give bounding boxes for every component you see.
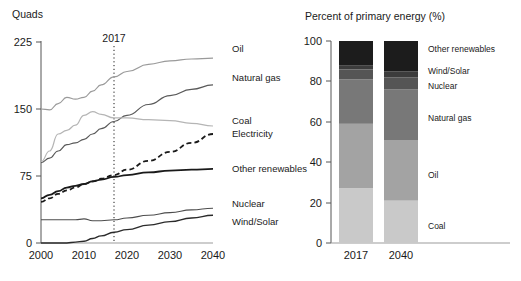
bar-segment-coal-2017[interactable] [339, 189, 373, 244]
segment-label-wind-solar: Wind/Solar [428, 66, 470, 76]
series-label-electricity: Electricity [232, 128, 273, 139]
y-tick-label-75: 75 [20, 170, 32, 182]
bar-y-tick-label-80: 80 [310, 75, 322, 87]
series-label-nuclear: Nuclear [232, 198, 265, 209]
stacked-bar-2017[interactable] [339, 41, 373, 243]
line-series-coal [41, 112, 213, 162]
line-series-oil [41, 58, 213, 110]
x-tick-label-2030: 2030 [158, 249, 182, 261]
line-chart-panel: Quads 0 75 150 225 2000 2010 2020 2030 2… [12, 8, 307, 261]
stacked-bar-title: Percent of primary energy (%) [305, 10, 445, 22]
line-series-other-renewables [41, 169, 213, 198]
bar-segment-oil-2017[interactable] [339, 124, 373, 189]
stacked-bar-y-ticks: 0 20 40 60 80 100 [304, 35, 331, 249]
series-label-coal: Coal [232, 115, 252, 126]
x-tick-label-2000: 2000 [29, 249, 53, 261]
line-chart-series-labels: Oil Natural gas Coal Electricity Other r… [232, 43, 307, 227]
stacked-bar-panel: Percent of primary energy (%) 0 20 40 60… [304, 10, 510, 261]
y-tick-label-225: 225 [14, 36, 32, 48]
stacked-bar-category-labels: 2017 2040 [344, 249, 413, 261]
bar-y-tick-label-20: 20 [310, 197, 322, 209]
line-chart-y-axis-title: Quads [12, 8, 43, 20]
bar-segment-natural-gas-2017[interactable] [339, 79, 373, 123]
energy-outlook-figure: Quads 0 75 150 225 2000 2010 2020 2030 2… [0, 0, 521, 281]
series-label-oil: Oil [232, 43, 244, 54]
line-chart-x-ticks: 2000 2010 2020 2030 2040 [29, 249, 225, 261]
series-label-wind-solar: Wind/Solar [232, 216, 278, 227]
y-tick-label-0: 0 [26, 237, 32, 249]
bar-segment-wind-solar-2017[interactable] [339, 65, 373, 69]
segment-label-natural-gas: Natural gas [428, 113, 471, 123]
year-2017-annotation: 2017 [102, 32, 126, 44]
bar-y-tick-label-100: 100 [304, 35, 322, 47]
series-label-natural-gas: Natural gas [232, 72, 281, 83]
segment-label-oil: Oil [428, 170, 439, 180]
bar-segment-oil-2040[interactable] [384, 140, 418, 201]
x-tick-label-2040: 2040 [201, 249, 225, 261]
line-series-natural-gas [41, 85, 213, 163]
segment-label-coal: Coal [428, 221, 446, 231]
series-label-other-renewables: Other renewables [232, 163, 307, 174]
bar-segment-wind-solar-2040[interactable] [384, 71, 418, 77]
bar-segment-natural-gas-2040[interactable] [384, 90, 418, 141]
x-tick-label-2020: 2020 [115, 249, 139, 261]
bar-segment-nuclear-2017[interactable] [339, 69, 373, 79]
line-chart-y-ticks: 0 75 150 225 [14, 36, 41, 249]
figure-svg: Quads 0 75 150 225 2000 2010 2020 2030 2… [0, 0, 521, 281]
stacked-bars-group [339, 41, 418, 243]
bar-y-tick-label-0: 0 [316, 237, 322, 249]
bar-segment-nuclear-2040[interactable] [384, 77, 418, 89]
stacked-bar-2040[interactable] [384, 41, 418, 243]
y-tick-label-150: 150 [14, 103, 32, 115]
bar-category-label-2040: 2040 [389, 249, 413, 261]
line-series-group [41, 58, 213, 243]
stacked-bar-segment-labels: Other renewables Wind/Solar Nuclear Natu… [428, 44, 495, 231]
bar-y-tick-label-40: 40 [310, 156, 322, 168]
segment-label-other-renewables: Other renewables [428, 44, 495, 54]
bar-segment-other-renewables-2017[interactable] [339, 41, 373, 65]
bar-category-label-2017: 2017 [344, 249, 368, 261]
bar-segment-coal-2040[interactable] [384, 201, 418, 243]
segment-label-nuclear: Nuclear [428, 81, 457, 91]
x-tick-label-2010: 2010 [72, 249, 96, 261]
bar-segment-other-renewables-2040[interactable] [384, 41, 418, 71]
bar-y-tick-label-60: 60 [310, 116, 322, 128]
